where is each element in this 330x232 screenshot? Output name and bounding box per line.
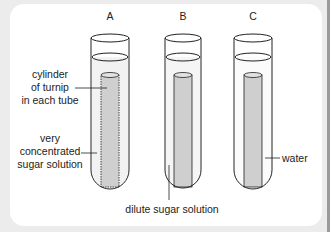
svg-text:dilute sugar solution: dilute sugar solution — [125, 203, 219, 215]
annotation-water: water — [265, 152, 308, 164]
tube-label-b: B — [179, 10, 186, 22]
tube-label-a: A — [106, 10, 113, 22]
svg-text:of turnip: of turnip — [31, 81, 69, 93]
svg-text:water: water — [281, 152, 308, 164]
svg-text:sugar solution: sugar solution — [17, 158, 83, 170]
turnip-cylinder-b — [174, 75, 192, 187]
svg-text:cylinder: cylinder — [32, 68, 69, 80]
test-tube-c — [234, 34, 272, 189]
tube-label-c: C — [249, 10, 257, 22]
test-tube-a — [91, 34, 129, 189]
osmosis-diagram: A B C cylinder of turnip in each tube — [0, 0, 330, 232]
svg-text:very: very — [40, 132, 61, 144]
test-tube-b — [165, 34, 201, 188]
turnip-cylinder-a — [101, 75, 119, 187]
turnip-cylinder-c — [244, 75, 262, 187]
svg-text:in each tube: in each tube — [21, 94, 78, 106]
annotation-concentrated: very concentrated sugar solution — [17, 132, 97, 170]
svg-text:concentrated: concentrated — [20, 145, 81, 157]
